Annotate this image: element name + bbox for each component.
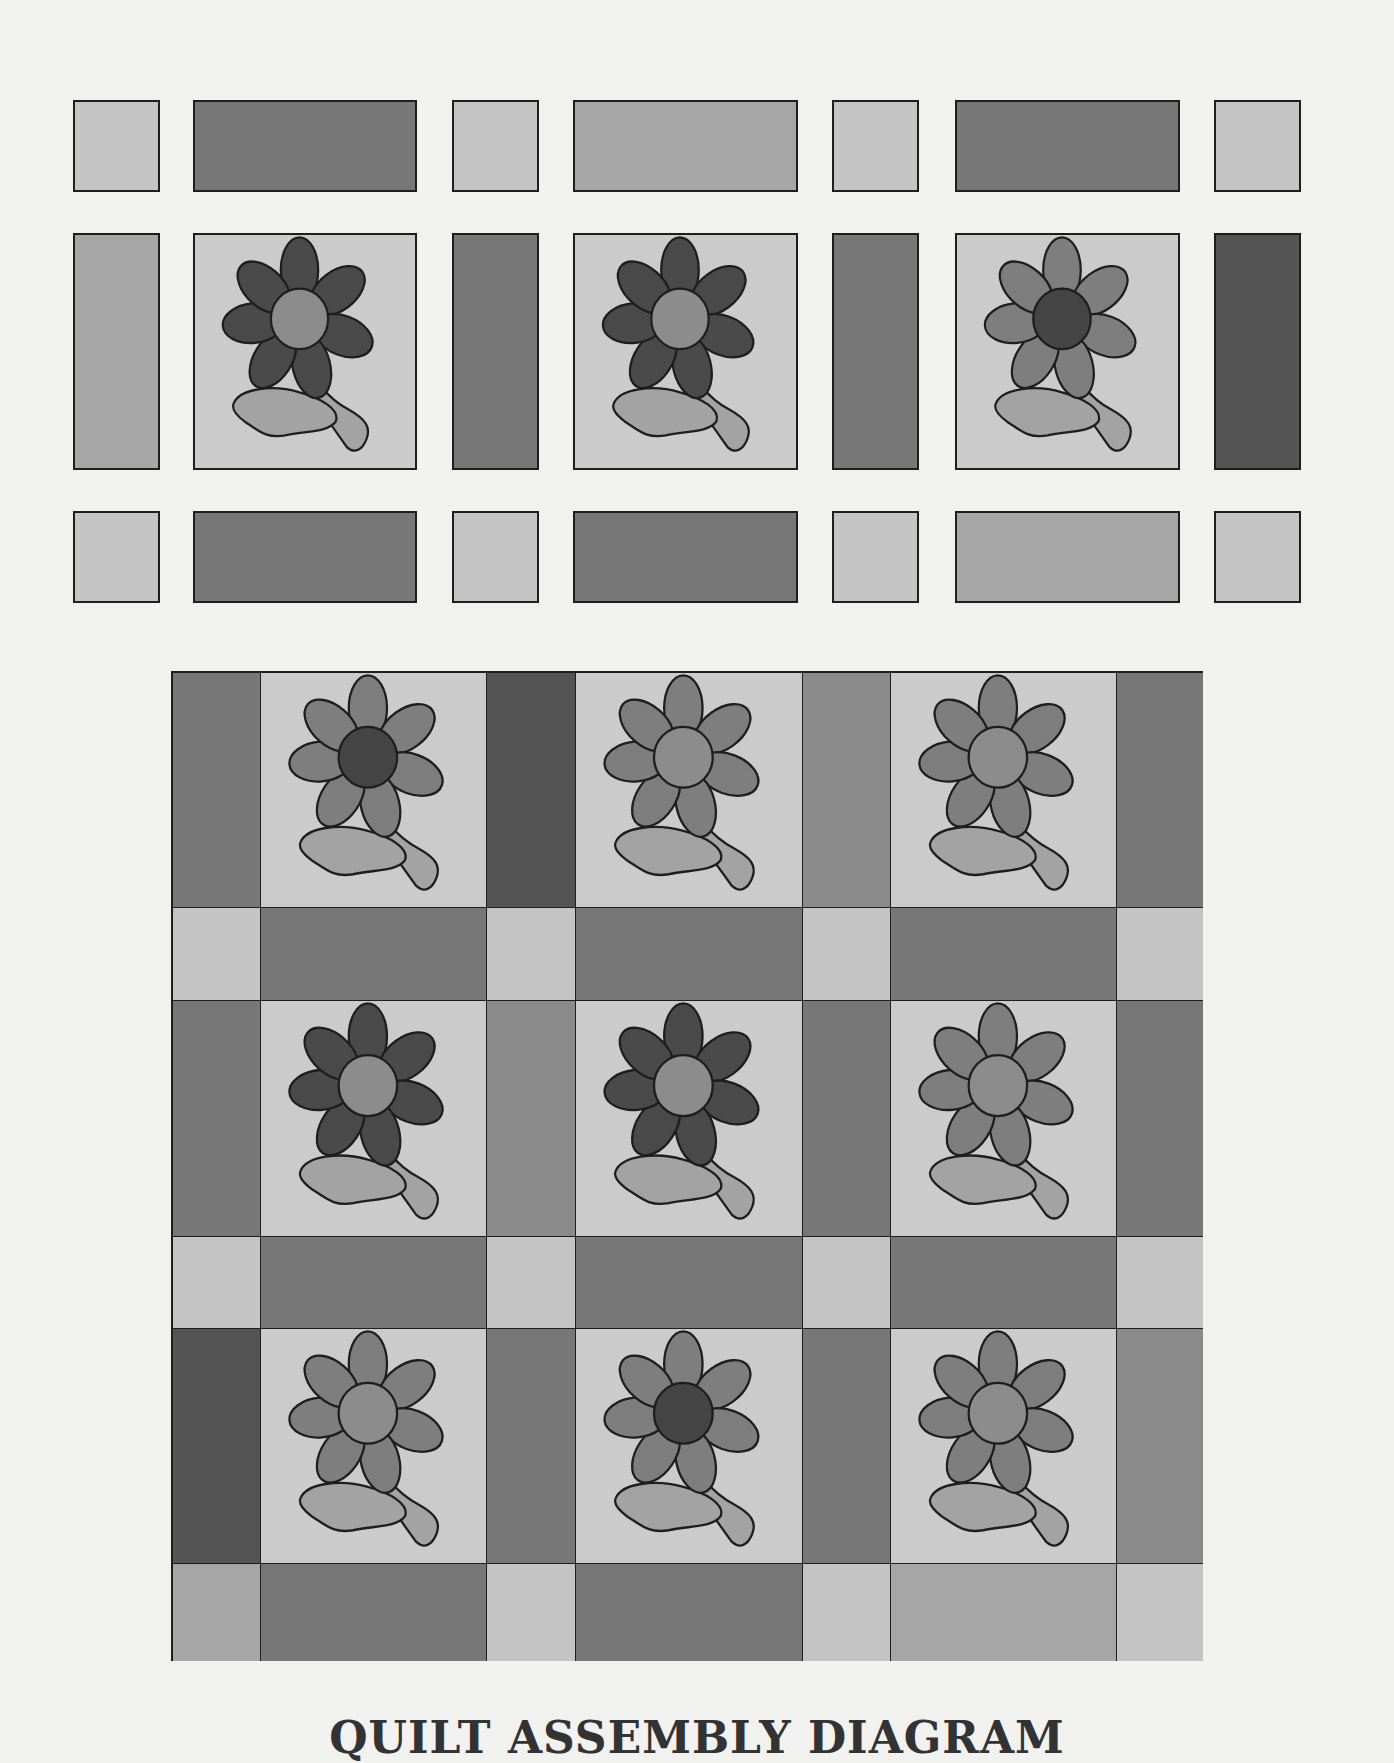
flower-block (891, 673, 1117, 908)
cornerstone-piece (1117, 1564, 1203, 1661)
flower-block (576, 1001, 803, 1237)
sashing-strip (487, 673, 576, 908)
sashing-strip (1117, 673, 1203, 908)
sashing-strip (573, 100, 798, 192)
cornerstone-piece (803, 1237, 891, 1329)
flower-applique-icon (576, 1001, 802, 1236)
cornerstone-piece (173, 1564, 261, 1661)
flower-applique-icon (891, 1001, 1116, 1236)
sashing-strip (261, 1564, 487, 1661)
sashing-strip (955, 511, 1180, 603)
cornerstone-piece (452, 511, 539, 603)
sashing-strip (1117, 1001, 1203, 1237)
sashing-strip (487, 1001, 576, 1237)
cornerstone-piece (452, 100, 539, 192)
sashing-strip (891, 1237, 1117, 1329)
sashing-strip (173, 1001, 261, 1237)
flower-applique-icon (195, 235, 415, 468)
flower-applique-icon (261, 1329, 486, 1563)
flower-block (573, 233, 798, 470)
flower-block (576, 673, 803, 908)
cornerstone-piece (803, 1564, 891, 1661)
flower-block (193, 233, 417, 470)
sashing-strip (261, 1237, 487, 1329)
assembled-quilt (171, 671, 1203, 1661)
sashing-strip (576, 908, 803, 1001)
sashing-strip (803, 1329, 891, 1564)
sashing-strip (576, 1237, 803, 1329)
flower-block (261, 1001, 487, 1237)
sashing-strip (261, 908, 487, 1001)
cornerstone-piece (73, 511, 160, 603)
cornerstone-piece (803, 908, 891, 1001)
cornerstone-piece (173, 1237, 261, 1329)
cornerstone-piece (73, 100, 160, 192)
cornerstone-piece (832, 100, 919, 192)
sashing-strip (1214, 233, 1301, 470)
sashing-strip (173, 673, 261, 908)
flower-applique-icon (261, 1001, 486, 1236)
flower-block (891, 1329, 1117, 1564)
cornerstone-piece (1117, 1237, 1203, 1329)
cornerstone-piece (487, 1564, 576, 1661)
flower-applique-icon (891, 1329, 1116, 1563)
flower-block (891, 1001, 1117, 1237)
sashing-strip (573, 511, 798, 603)
flower-applique-icon (957, 235, 1178, 468)
cornerstone-piece (1117, 908, 1203, 1001)
sashing-strip (955, 100, 1180, 192)
sashing-strip (891, 1564, 1117, 1661)
sashing-strip (1117, 1329, 1203, 1564)
cornerstone-piece (832, 511, 919, 603)
cornerstone-piece (1214, 511, 1301, 603)
sashing-strip (173, 1329, 261, 1564)
sashing-strip (803, 673, 891, 908)
flower-applique-icon (575, 235, 796, 468)
flower-block (261, 673, 487, 908)
sashing-strip (576, 1564, 803, 1661)
flower-applique-icon (891, 673, 1116, 907)
sashing-strip (452, 233, 539, 470)
sashing-strip (193, 100, 417, 192)
diagram-title: QUILT ASSEMBLY DIAGRAM (0, 1712, 1394, 1763)
cornerstone-piece (487, 908, 576, 1001)
sashing-strip (73, 233, 160, 470)
sashing-strip (487, 1329, 576, 1564)
flower-block (261, 1329, 487, 1564)
flower-block (955, 233, 1180, 470)
flower-block (576, 1329, 803, 1564)
sashing-strip (891, 908, 1117, 1001)
sashing-strip (832, 233, 919, 470)
flower-applique-icon (576, 1329, 802, 1563)
flower-applique-icon (261, 673, 486, 907)
sashing-strip (803, 1001, 891, 1237)
sashing-strip (193, 511, 417, 603)
cornerstone-piece (1214, 100, 1301, 192)
cornerstone-piece (487, 1237, 576, 1329)
flower-applique-icon (576, 673, 802, 907)
cornerstone-piece (173, 908, 261, 1001)
